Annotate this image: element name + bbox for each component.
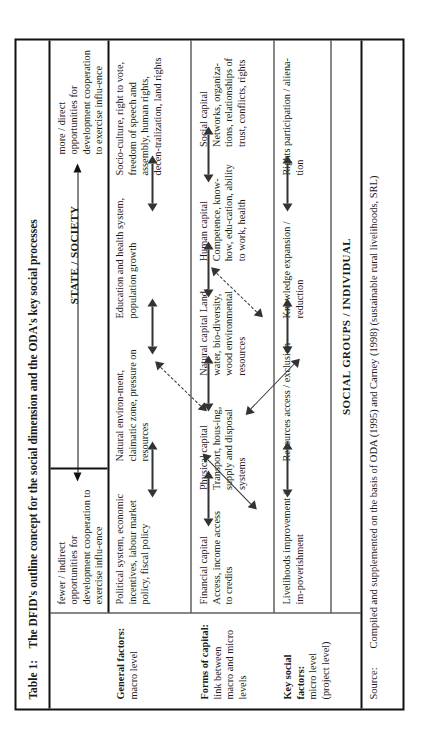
cell-human-capital: Human capital Competence, know-how, edu-…: [191, 154, 273, 268]
cell-knowledge-title: Knowledge: [280, 271, 291, 318]
arrow-general-2-3-icon: [151, 306, 153, 346]
arrow-resources-knowledge-icon: [286, 306, 288, 346]
row-label-key-social-factors: Key social factors: micro level (project…: [274, 612, 331, 708]
matrix-content: Political system, economic incentives, l…: [50, 40, 360, 612]
table-title-text: The DFID's outline concept for the socia…: [26, 219, 38, 648]
cell-resources-title: Resources: [280, 419, 291, 461]
page-root: Table 1: The DFID's outline concept for …: [0, 0, 421, 748]
row-label-general-factors-title: General factors:: [114, 627, 125, 699]
arrow-livelihoods-resources-icon: [286, 449, 288, 489]
matrix-row-forms-of-capital: Financial capital Access, income access …: [191, 40, 274, 612]
cell-natural-capital-title: Natural capital: [197, 314, 208, 375]
row-label-key-social-factors-title: Key social factors:: [281, 654, 305, 699]
header-state-society: STATE / SOCIETY: [67, 40, 79, 469]
table-title-row: Table 1: The DFID's outline concept for …: [16, 40, 50, 708]
arrow-physical-natural-icon: [207, 363, 209, 403]
row-label-key-social-factors-sub: micro level (project level): [306, 641, 330, 699]
row-label-forms-of-capital-title: Forms of capital:: [198, 624, 209, 700]
row-label-forms-of-capital-sub: link between macro and micro levels: [211, 629, 247, 699]
cell-physical-capital-text: Transport, hous-ing, supply and disposal…: [210, 406, 246, 489]
row-label-forms-of-capital: Forms of capital: link between macro and…: [191, 612, 248, 708]
cell-human-capital-text: Competence, know-how, edu-cation, abilit…: [210, 164, 246, 261]
arrow-financial-physical-icon: [207, 478, 209, 518]
arrow-knowledge-rights-icon: [286, 163, 288, 203]
matrix-row-key-social-factors: Livelihoods improvement / im-poverishmen…: [274, 40, 330, 612]
arrow-general-1-2-icon: [151, 449, 153, 489]
matrix-row-general-factors: Political system, economic incentives, l…: [107, 40, 191, 612]
header-social-groups-individual: SOCIAL GROUPS / INDIVIDUAL: [339, 40, 351, 612]
row-label-general-factors-sub: macro level: [127, 651, 138, 699]
footer-header-strip: SOCIAL GROUPS / INDIVIDUAL: [330, 40, 360, 612]
cell-social-capital: Social capital Networks, organiza-tions,…: [191, 40, 273, 154]
cell-financial-capital-title: Financial capital: [197, 536, 208, 604]
cell-natural-capital: Natural capital Land, water, bio-diversi…: [191, 269, 273, 383]
row-label-general-factors: General factors: macro level: [107, 612, 139, 708]
arrow-human-social-icon: [207, 134, 209, 174]
arrow-general-3-4-icon: [151, 163, 153, 203]
cell-human-capital-title: Human capital: [197, 200, 208, 260]
source-label: Source:: [367, 648, 378, 708]
table-body: fewer / indirect opportunities for devel…: [50, 40, 360, 708]
table-number-label: Table 1:: [26, 648, 38, 708]
cell-physical-capital: Physical capital Transport, hous-ing, su…: [191, 383, 273, 497]
source-text: Compiled and supplemented on the basis o…: [367, 175, 378, 648]
rotated-table-frame: Table 1: The DFID's outline concept for …: [0, 0, 421, 748]
cell-livelihoods-title: Livelihoods: [280, 555, 291, 604]
table-source-row: Source: Compiled and supplemented on the…: [360, 40, 400, 708]
table-figure: Table 1: The DFID's outline concept for …: [14, 38, 404, 710]
cell-social-capital-text: Networks, organiza-tions, relationships …: [210, 57, 246, 146]
cell-financial-capital: Financial capital Access, income access …: [191, 498, 273, 612]
cell-social-capital-title: Social capital: [197, 91, 208, 147]
